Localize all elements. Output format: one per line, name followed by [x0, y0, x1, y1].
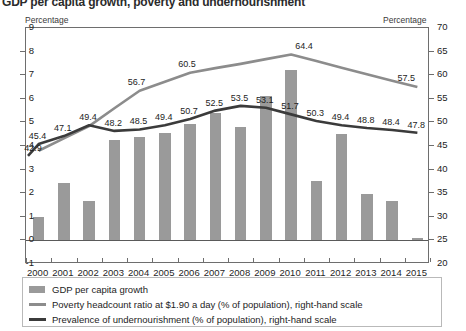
undernourishment-label-49.4: 49.4: [151, 112, 177, 122]
right-tick-35: 35: [437, 187, 457, 197]
undernourishment-label-48.2: 48.2: [100, 118, 126, 128]
right-tick-45: 45: [437, 140, 457, 150]
left-tick-mark: [20, 216, 25, 217]
line-series-layer: [26, 28, 430, 264]
figure-title: GDP per capita growth, poverty and under…: [0, 0, 466, 9]
right-tick-70: 70: [437, 22, 457, 32]
left-tick-mark: [20, 192, 25, 193]
left-tick-mark: [20, 74, 25, 75]
right-tick-mark: [429, 216, 434, 217]
legend-item-gdp: GDP per capita growth: [29, 282, 441, 297]
right-axis-unit-label: Percentage: [383, 15, 426, 25]
undernourishment-label-45.4: 45.4: [25, 131, 51, 141]
right-tick-25: 25: [437, 234, 457, 244]
legend-label-gdp: GDP per capita growth: [52, 284, 148, 295]
undernourishment-label-48.4: 48.4: [378, 117, 404, 127]
right-tick-mark: [429, 121, 434, 122]
chart-figure: GDP per capita growth, poverty and under…: [0, 0, 466, 331]
legend-label-poverty: Poverty headcount ratio at $1.90 a day (…: [52, 299, 363, 310]
undernourishment-label-53.1: 53.1: [252, 95, 278, 105]
x-tick: [430, 258, 431, 262]
right-tick-mark: [429, 239, 434, 240]
right-tick-mark: [429, 74, 434, 75]
line-swatch-dark-icon: [29, 318, 46, 321]
undernourishment-label-52.5: 52.5: [201, 98, 227, 108]
line-swatch-light-icon: [29, 303, 46, 306]
left-tick-9: 9: [18, 22, 34, 32]
plot-area: [25, 27, 429, 263]
left-tick-mark: [20, 98, 25, 99]
left-tick-mark: [20, 121, 25, 122]
right-tick-55: 55: [437, 93, 457, 103]
left-tick-mark: [20, 239, 25, 240]
undernourishment-label-50.7: 50.7: [176, 106, 202, 116]
right-tick-20: 20: [437, 258, 457, 268]
chart-legend: GDP per capita growth Poverty headcount …: [22, 277, 442, 327]
legend-item-poverty: Poverty headcount ratio at $1.90 a day (…: [29, 297, 441, 312]
left-tick-mark: [20, 169, 25, 170]
undernourishment-label-49.4: 49.4: [75, 112, 101, 122]
poverty-label-64.4: 64.4: [291, 41, 317, 51]
undernourishment-label-48.5: 48.5: [126, 116, 152, 126]
right-tick-60: 60: [437, 69, 457, 79]
undernourishment-label-53.5: 53.5: [227, 93, 253, 103]
right-tick-mark: [429, 145, 434, 146]
undernourishment-label-47.8: 47.8: [403, 120, 429, 130]
left-tick-mark: [20, 51, 25, 52]
bar-swatch-icon: [29, 286, 45, 293]
right-tick-40: 40: [437, 164, 457, 174]
right-tick-65: 65: [437, 46, 457, 56]
undernourishment-label-48.8: 48.8: [353, 115, 379, 125]
right-tick-50: 50: [437, 116, 457, 126]
legend-label-undernourishment: Prevalence of undernourishment (% of pop…: [52, 314, 337, 325]
poverty-label-57.5: 57.5: [393, 73, 419, 83]
right-tick-mark: [429, 192, 434, 193]
poverty-label-60.5: 60.5: [174, 59, 200, 69]
right-tick-mark: [429, 51, 434, 52]
undernourishment-label-47.1: 47.1: [50, 123, 76, 133]
undernourishment-label-51.7: 51.7: [277, 101, 303, 111]
right-tick-mark: [429, 98, 434, 99]
right-tick-mark: [429, 169, 434, 170]
right-tick-30: 30: [437, 211, 457, 221]
poverty-label-56.7: 56.7: [124, 77, 150, 87]
undernourishment-label-49.4: 49.4: [328, 112, 354, 122]
undernourishment-label-42.9: 42.9: [20, 143, 46, 153]
undernourishment-label-50.3: 50.3: [302, 108, 328, 118]
legend-item-undernourishment: Prevalence of undernourishment (% of pop…: [29, 312, 441, 327]
